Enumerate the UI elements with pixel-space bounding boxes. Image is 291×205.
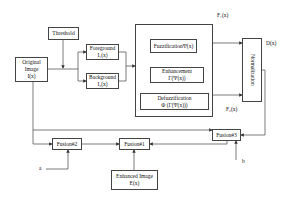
fusion2-label: Fusion#2 [57,141,77,148]
foreground-label-1: Foreground [90,45,116,52]
fusion3-label: Fusion#3 [216,132,236,139]
background-box: Background I₂(x) [86,73,119,89]
fusion2-box: Fusion#2 [52,138,82,150]
defuzzification-box: Defuzzification Φ (Γ(Ψ(x))) [140,93,209,110]
fuzzification-label: FuzzificationΨ(x) [154,43,194,50]
fusion1-box: Fusion#1 [119,138,150,150]
background-label-1: Background [89,74,116,81]
a-label: a [39,165,41,172]
foreground-label-2: I₁(x) [97,52,107,59]
fusion1-label: Fusion#1 [124,141,144,148]
enhanced-label-1: Enhanced Image [116,173,153,180]
normalization-box: Normalization [242,38,262,102]
fuzzification-box: FuzzificationΨ(x) [150,39,197,53]
original-image-box: Original Image I(x) [15,57,48,82]
defuzzification-label-1: Defuzzification [157,95,191,102]
b-label: b [242,158,245,165]
enhanced-image-box: Enhanced Image E(x) [111,170,158,190]
f1-label: F₁(x) [217,12,228,19]
background-label-2: I₂(x) [97,81,107,88]
original-label-1: Original [22,59,40,66]
original-label-3: I(x) [27,73,35,80]
original-label-2: Image [25,66,39,73]
enhancement-box: Enhancement Γ(Ψ(x)) [150,67,204,83]
d-label: D(x) [266,40,276,47]
enhancement-label-2: Γ(Ψ(x)) [168,75,185,82]
threshold-label: Threshold [52,30,74,37]
enhancement-label-1: Enhancement [162,68,192,75]
threshold-box: Threshold [48,27,79,40]
fusion3-box: Fusion#3 [212,129,241,141]
foreground-box: Foreground I₁(x) [86,44,119,60]
defuzzification-label-2: Φ (Γ(Ψ(x))) [161,102,187,109]
normalization-label: Normalization [249,54,256,86]
enhanced-label-2: E(x) [130,180,140,187]
f2-label: F₂(x) [226,106,237,113]
